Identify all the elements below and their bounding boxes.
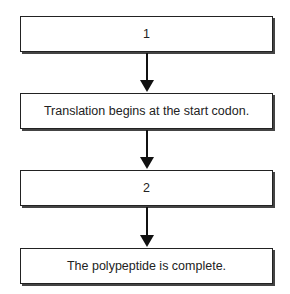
step-box-3: 2 [20,170,273,206]
step-label: The polypeptide is complete. [67,259,226,273]
connector-line [146,53,148,81]
step-box-1: 1 [20,16,273,52]
step-label: 2 [143,181,150,195]
connector-line [146,207,148,235]
arrow-down-icon [140,235,154,247]
step-label: Translation begins at the start codon. [44,104,249,118]
step-box-2: Translation begins at the start codon. [20,93,273,129]
step-box-4: The polypeptide is complete. [20,248,273,284]
arrow-down-icon [140,80,154,92]
arrow-down-icon [140,157,154,169]
step-label: 1 [143,27,150,41]
connector-line [146,130,148,158]
